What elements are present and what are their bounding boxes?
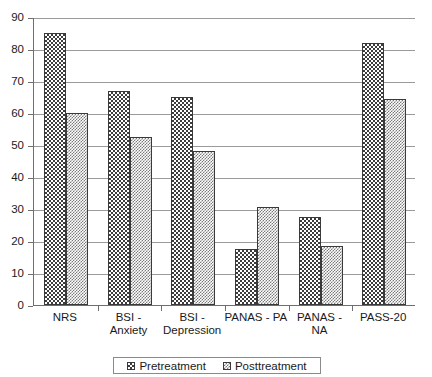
y-tick-label-90: 90 bbox=[0, 12, 24, 24]
chart-legend: Pretreatment Posttreatment bbox=[113, 357, 321, 374]
bar-bsi-depression-pretreatment bbox=[171, 97, 193, 305]
y-tick-label-10: 10 bbox=[0, 268, 24, 280]
posttreatment-pattern-swatch bbox=[223, 362, 231, 370]
x-tick-label-panas-pa: PANAS - PA bbox=[224, 311, 288, 324]
gridline-40 bbox=[34, 178, 415, 179]
bar-bsi-anxiety-pretreatment bbox=[108, 91, 130, 305]
x-tick-label-bsi-depression: BSI - Depression bbox=[160, 311, 224, 337]
y-tick-label-30: 30 bbox=[0, 204, 24, 216]
y-tick-mark-0 bbox=[28, 306, 33, 307]
y-tick-label-60: 60 bbox=[0, 108, 24, 120]
gridline-20 bbox=[34, 242, 415, 243]
bar-bsi-anxiety-posttreatment bbox=[130, 137, 152, 305]
bar-chart: 0102030405060708090 NRSBSI - AnxietyBSI … bbox=[0, 0, 432, 377]
gridline-50 bbox=[34, 146, 415, 147]
y-tick-label-20: 20 bbox=[0, 236, 24, 248]
x-tick-label-nrs: NRS bbox=[33, 311, 97, 324]
bar-nrs-pretreatment bbox=[44, 33, 66, 305]
plot-area bbox=[33, 18, 415, 306]
bar-bsi-depression-posttreatment bbox=[193, 151, 215, 305]
gridline-70 bbox=[34, 82, 415, 83]
x-tick-label-pass-20: PASS-20 bbox=[351, 311, 415, 324]
bar-nrs-posttreatment bbox=[66, 113, 88, 305]
bar-panas-na-posttreatment bbox=[321, 246, 343, 305]
gridline-30 bbox=[34, 210, 415, 211]
bar-panas-pa-posttreatment bbox=[257, 207, 279, 305]
y-tick-label-50: 50 bbox=[0, 140, 24, 152]
gridline-10 bbox=[34, 274, 415, 275]
legend-item-posttreatment: Posttreatment bbox=[223, 360, 307, 372]
y-tick-label-40: 40 bbox=[0, 172, 24, 184]
bar-pass-20-pretreatment bbox=[362, 43, 384, 305]
bar-panas-na-pretreatment bbox=[299, 217, 321, 305]
bar-pass-20-posttreatment bbox=[384, 99, 406, 305]
gridline-80 bbox=[34, 50, 415, 51]
x-tick-label-bsi-anxiety: BSI - Anxiety bbox=[97, 311, 161, 337]
gridline-90 bbox=[34, 18, 415, 19]
legend-label-pretreatment: Pretreatment bbox=[139, 360, 205, 372]
legend-label-posttreatment: Posttreatment bbox=[235, 360, 307, 372]
pretreatment-pattern-swatch bbox=[127, 362, 135, 370]
legend-item-pretreatment: Pretreatment bbox=[127, 360, 205, 372]
y-tick-label-70: 70 bbox=[0, 76, 24, 88]
gridline-60 bbox=[34, 114, 415, 115]
bar-panas-pa-pretreatment bbox=[235, 249, 257, 305]
y-tick-label-80: 80 bbox=[0, 44, 24, 56]
x-tick-label-panas-na: PANAS - NA bbox=[288, 311, 352, 337]
y-tick-label-0: 0 bbox=[0, 300, 24, 312]
